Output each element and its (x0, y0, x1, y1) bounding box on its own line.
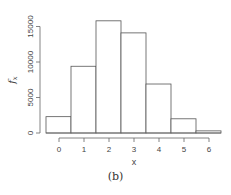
x-tick-label: 1 (82, 145, 87, 154)
y-tick-label: 15000 (26, 15, 35, 38)
x-tick-label: 5 (182, 145, 187, 154)
x-tick-label: 4 (157, 145, 162, 154)
histogram-bar (96, 21, 121, 133)
y-axis: 050001000015000 (26, 15, 40, 135)
histogram-bar (71, 66, 96, 133)
y-tick-label: 5000 (26, 88, 35, 106)
histogram-bars (46, 21, 221, 133)
figure-caption: (b) (0, 170, 231, 183)
histogram-bar (46, 117, 71, 133)
histogram-bar (146, 84, 171, 133)
x-tick-label: 3 (132, 145, 137, 154)
x-axis: 0123456 (57, 138, 212, 154)
y-tick-label: 0 (26, 130, 35, 135)
x-tick-label: 0 (57, 145, 62, 154)
y-axis-label: fx (6, 76, 19, 85)
x-axis-label: x (132, 157, 137, 167)
x-tick-label: 6 (207, 145, 212, 154)
y-tick-label: 10000 (26, 50, 35, 73)
x-tick-label: 2 (107, 145, 112, 154)
histogram-bar (121, 33, 146, 133)
histogram-bar (171, 119, 196, 133)
histogram-chart: 050001000015000 0123456 fx x (0, 0, 231, 170)
